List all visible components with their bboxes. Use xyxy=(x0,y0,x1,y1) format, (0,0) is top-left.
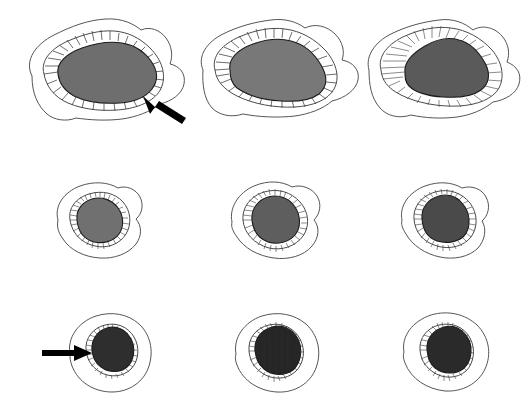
panel-r2c3 xyxy=(392,176,502,266)
oocyte-core xyxy=(427,326,471,373)
panel-r3c3 xyxy=(392,306,502,402)
panel-r1c1 xyxy=(10,8,195,133)
figure-canvas: Oocyte and follicle development series xyxy=(0,0,523,408)
panel-r1c3 xyxy=(355,8,523,133)
panel-r1c2 xyxy=(185,8,370,133)
panel-r3c2 xyxy=(222,306,332,402)
panel-r2c2 xyxy=(222,176,332,266)
figure-title: Oocyte and follicle development series xyxy=(0,0,1,1)
oocyte-core xyxy=(252,196,300,243)
oocyte-core xyxy=(255,326,301,374)
panel-r2c1 xyxy=(46,176,156,266)
oocyte-core xyxy=(77,198,123,243)
oocyte-core xyxy=(92,327,134,371)
panel-r3c1 xyxy=(36,306,176,402)
oocyte-core xyxy=(422,195,469,242)
